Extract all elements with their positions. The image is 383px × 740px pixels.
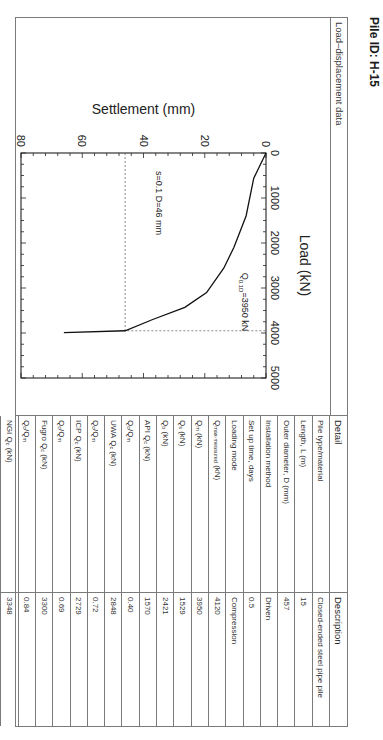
description-cell: 2848 <box>105 593 122 727</box>
detail-cell: Qs (kN) <box>174 416 191 593</box>
detail-cell: Qc/Qm <box>18 416 35 593</box>
s-annotation: s=0.1 D=46 mm <box>154 171 164 235</box>
detail-cell: Installation method <box>260 416 277 593</box>
detail-cell: Fugro Qc (kN) <box>35 416 52 593</box>
description-cell: 3348 <box>1 593 18 727</box>
description-cell: 1529 <box>174 593 191 727</box>
description-cell: 0.72 <box>87 593 104 727</box>
detail-cell: Qc/Qm <box>0 416 1 593</box>
y-axis-title: Settlement (mm) <box>92 101 195 117</box>
y-tick-label: 20 <box>199 135 211 147</box>
table-row: Qc/Qm0.69 <box>53 416 70 726</box>
table-row: Qc/Qm0.84 <box>18 416 35 726</box>
detail-cell: ICP Qc (kN) <box>70 416 87 593</box>
y-tick-label: 60 <box>76 135 88 147</box>
detail-cell: Qmax-measured (kN) <box>208 416 225 593</box>
table-row: Qs (kN)1529 <box>174 416 191 726</box>
table-row: ICP Qc (kN)2729 <box>70 416 87 726</box>
description-cell: 15 <box>295 593 312 727</box>
x-tick-label: 5000 <box>269 366 281 390</box>
detail-cell: Outer diameter, D (mm) <box>278 416 295 593</box>
load-settlement-curve <box>64 153 266 333</box>
panel-header: Load–displacement data <box>330 18 347 415</box>
table-row: Outer diameter, D (mm)457 <box>278 416 295 726</box>
x-tick-label: 4000 <box>269 321 281 345</box>
table-row: Set up time, days0.5 <box>243 416 260 726</box>
column-header-detail: Detail <box>330 416 348 593</box>
y-tick-label: 80 <box>16 135 27 147</box>
table-row: NGI Qc (kN)3348 <box>1 416 18 726</box>
description-cell: 0.69 <box>53 593 70 727</box>
description-cell: 457 <box>278 593 295 727</box>
description-cell: 2421 <box>157 593 174 727</box>
table-row: Qm (kN)3950 <box>191 416 208 726</box>
detail-cell: UWA Qc (kN) <box>105 416 122 593</box>
detail-cell: Qc/Qm <box>87 416 104 593</box>
table-row: Qc/Qm0.72 <box>87 416 104 726</box>
column-header-description: Description <box>330 593 348 727</box>
table-row: Pile type/materialClosed-ended steel pip… <box>312 416 329 726</box>
description-cell: 3950 <box>191 593 208 727</box>
detail-cell: NGI Qc (kN) <box>1 416 18 593</box>
load-settlement-chart: 010002000300040005000020406080Load (kN)S… <box>16 18 330 415</box>
detail-cell: Loading mode <box>226 416 243 593</box>
detail-cell: Pile type/material <box>312 416 329 593</box>
detail-cell: Qc/Qm <box>53 416 70 593</box>
table-row: Loading modeCompression <box>226 416 243 726</box>
data-sheet-frame: Load–displacement data 01000200030004000… <box>15 17 348 727</box>
plot-area <box>21 153 266 378</box>
x-tick-label: 3000 <box>269 276 281 300</box>
description-cell: 1570 <box>139 593 156 727</box>
detail-cell: API Qc (kN) <box>139 416 156 593</box>
page-title: Pile ID: H-15 <box>367 17 381 87</box>
description-cell: 0.84 <box>18 593 35 727</box>
detail-cell: Set up time, days <box>243 416 260 593</box>
table-row: UWA Qc (kN)2848 <box>105 416 122 726</box>
detail-cell: Length, L (m) <box>295 416 312 593</box>
detail-cell: Qm (kN) <box>191 416 208 593</box>
q01d-annotation: Q0.1D=3950 kN <box>238 273 250 331</box>
y-tick-label: 0 <box>260 141 272 147</box>
document-page: Pile ID: H-15 Load–displacement data 010… <box>0 0 383 740</box>
detail-cell: Qc/Qm <box>122 416 139 593</box>
load-displacement-panel: Load–displacement data 01000200030004000… <box>16 18 347 416</box>
table-header-row: Detail Description <box>330 416 348 726</box>
table-row: Qc/Qm0.85 <box>0 416 1 726</box>
table-row: API Qc (kN)1570 <box>139 416 156 726</box>
pile-details-table: Detail Description Pile type/materialClo… <box>16 416 347 726</box>
description-cell: 0.40 <box>122 593 139 727</box>
detail-cell: Qb (kN) <box>157 416 174 593</box>
chart-svg: 010002000300040005000020406080Load (kN)S… <box>16 18 330 415</box>
description-cell: 4120 <box>208 593 225 727</box>
x-tick-label: 1000 <box>269 186 281 210</box>
description-cell: 0.85 <box>0 593 1 727</box>
x-axis-title: Load (kN) <box>297 235 313 296</box>
x-tick-label: 0 <box>269 150 281 156</box>
table-row: Qb (kN)2421 <box>157 416 174 726</box>
description-cell: Compression <box>226 593 243 727</box>
y-tick-label: 40 <box>138 135 150 147</box>
description-cell: Driven <box>260 593 277 727</box>
table-row: Qmax-measured (kN)4120 <box>208 416 225 726</box>
description-cell: 0.5 <box>243 593 260 727</box>
description-cell: 2729 <box>70 593 87 727</box>
description-cell: 3300 <box>35 593 52 727</box>
x-tick-label: 2000 <box>269 231 281 255</box>
table-row: Qc/Qm0.40 <box>122 416 139 726</box>
table-row: Length, L (m)15 <box>295 416 312 726</box>
table-row: Fugro Qc (kN)3300 <box>35 416 52 726</box>
table-row: Installation methodDriven <box>260 416 277 726</box>
description-cell: Closed-ended steel pipe pile <box>312 593 329 727</box>
